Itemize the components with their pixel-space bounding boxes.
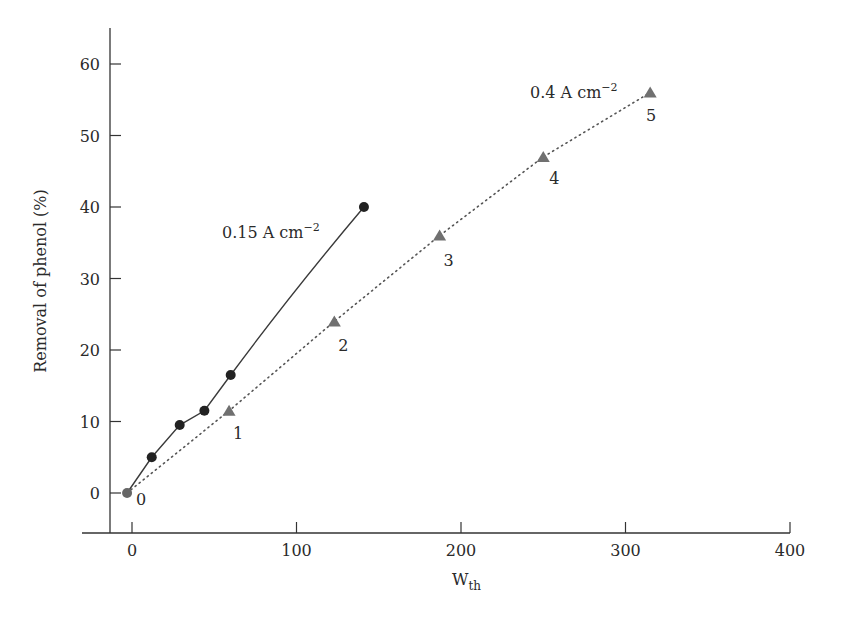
chart: 0102030405060 0100200300400 Removal of p… (0, 0, 847, 629)
x-axis-label-main: W (452, 570, 469, 589)
x-axis-label: Wth (452, 570, 481, 593)
x-tick-label: 200 (446, 541, 477, 560)
x-tick-label: 100 (281, 541, 312, 560)
series-0.4-line (127, 93, 650, 493)
y-tick-label: 0 (90, 484, 100, 503)
x-tick-label: 400 (775, 541, 806, 560)
circle-marker (175, 420, 185, 430)
point-label: 2 (338, 336, 348, 355)
circle-marker (226, 370, 236, 380)
circle-marker (122, 488, 132, 498)
point-label: 1 (233, 424, 243, 443)
y-tick-label: 30 (80, 270, 100, 289)
series-label-0.15: 0.15 A cm−2 (222, 221, 320, 242)
triangle-marker (644, 87, 657, 98)
circle-marker (147, 452, 157, 462)
y-tick-label: 10 (80, 413, 100, 432)
axes: 0102030405060 0100200300400 (80, 28, 806, 560)
circle-marker (359, 202, 369, 212)
y-tick-label: 50 (80, 127, 100, 146)
circle-marker (199, 406, 209, 416)
x-axis-label-subscript: th (468, 579, 481, 593)
point-label: 3 (444, 251, 454, 270)
y-axis-label: Removal of phenol (%) (31, 189, 50, 373)
x-tick-label: 300 (610, 541, 641, 560)
y-tick-label: 60 (80, 55, 100, 74)
point-label: 4 (549, 169, 559, 188)
point-label: 0 (136, 490, 146, 509)
point-label: 5 (646, 106, 656, 125)
x-ticks: 0100200300400 (127, 522, 805, 560)
triangle-marker (223, 405, 236, 416)
triangle-marker (537, 151, 550, 162)
y-ticks: 0102030405060 (80, 55, 121, 503)
series-0.15-line (127, 207, 364, 493)
series-label-0.4: 0.4 A cm−2 (530, 81, 618, 102)
y-tick-label: 20 (80, 341, 100, 360)
series-layer: 012345 (122, 87, 657, 509)
y-tick-label: 40 (80, 198, 100, 217)
x-tick-label: 0 (127, 541, 137, 560)
